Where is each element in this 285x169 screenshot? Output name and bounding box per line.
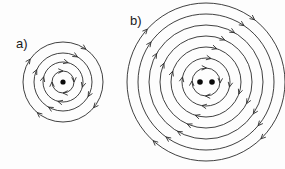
panel-a — [23, 42, 103, 122]
field-line-circle-6 — [138, 14, 274, 150]
panel-a-label: a) — [16, 36, 28, 51]
field-direction-arrow-5 — [63, 60, 68, 64]
field-direction-arrow-6 — [81, 82, 85, 87]
field-direction-arrow-8 — [41, 77, 45, 82]
field-line-circle-4 — [160, 36, 252, 128]
figure-canvas: a) b) — [0, 0, 285, 169]
wire-dot-2 — [209, 79, 215, 85]
field-line-diagram: a) b) — [0, 0, 285, 169]
panel-b-label: b) — [130, 13, 142, 28]
panel-b — [127, 3, 285, 161]
wire-dot-1 — [197, 79, 203, 85]
field-line-circle-1 — [192, 68, 220, 96]
wire-dot-1 — [60, 79, 65, 84]
field-line-circle-5 — [149, 25, 263, 139]
field-line-circle-2 — [182, 58, 230, 106]
field-line-circle-3 — [171, 47, 241, 117]
field-direction-arrow-7 — [58, 100, 63, 104]
